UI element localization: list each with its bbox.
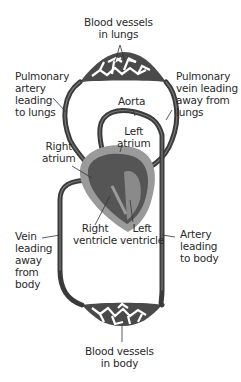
label-right-ventricle: Right ventricle — [73, 222, 117, 246]
body-capillary-bed — [82, 303, 162, 326]
circulation-diagram — [0, 0, 241, 382]
label-left-ventricle: Left ventricle — [120, 222, 164, 246]
label-right-atrium: Right atrium — [42, 140, 75, 164]
label-aorta: Aorta — [118, 95, 145, 107]
heart — [80, 145, 155, 232]
label-pulmonary-vein: Pulmonary vein leading away from lungs — [176, 70, 238, 118]
label-vein-from-body: Vein leading away from body — [15, 230, 52, 290]
label-body-vessels: Blood vessels in body — [85, 345, 154, 369]
label-artery-to-body: Artery leading to body — [180, 228, 218, 264]
label-lung-vessels: Blood vessels in lungs — [84, 16, 153, 40]
label-left-atrium: Left atrium — [117, 125, 150, 149]
label-pulmonary-artery: Pulmonary artery leading to lungs — [15, 70, 69, 118]
